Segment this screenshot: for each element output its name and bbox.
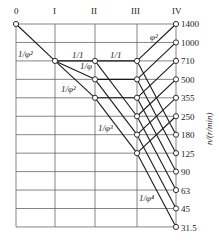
speed-node	[173, 187, 178, 192]
ratio-0-I: 1/φ²	[18, 49, 33, 59]
speed-node	[92, 77, 97, 82]
shaft-label-III: III	[131, 6, 140, 16]
speed-node	[52, 58, 57, 63]
speed-chart-diagram: 0 I II III IV 1400 1000 710 500 355 250 …	[0, 0, 219, 242]
speed-180: 180	[181, 130, 195, 140]
speed-node	[92, 58, 97, 63]
ratio-I-II-1: 1/1	[72, 50, 84, 60]
speed-node	[134, 77, 139, 82]
speed-node	[134, 95, 139, 100]
speed-node	[173, 40, 178, 45]
axis-label: n/(r/min)	[204, 112, 214, 145]
diagram-canvas: 0 I II III IV 1400 1000 710 500 355 250 …	[0, 0, 219, 242]
speed-710: 710	[181, 56, 195, 66]
shaft-label-IV: IV	[172, 6, 182, 16]
speed-1000: 1000	[181, 38, 200, 48]
ratio-II-III-1: 1/1	[110, 50, 122, 60]
speed-node	[173, 95, 178, 100]
speed-45: 45	[181, 204, 191, 214]
shaft-label-II: II	[91, 6, 97, 16]
speed-node	[173, 58, 178, 63]
speed-node	[173, 169, 178, 174]
speed-node	[134, 132, 139, 137]
speed-node	[134, 114, 139, 119]
speed-1400: 1400	[181, 19, 200, 29]
speed-355: 355	[181, 93, 195, 103]
ratio-I-II-2: 1/φ	[80, 61, 92, 71]
speed-node	[173, 77, 178, 82]
ratio-III-IV-2: 1/φ⁴	[139, 193, 154, 203]
speed-node	[173, 114, 178, 119]
shaft-label-0: 0	[14, 6, 19, 16]
speed-node	[173, 132, 178, 137]
speed-node	[134, 58, 139, 63]
speed-500: 500	[181, 75, 195, 85]
speed-node	[173, 206, 178, 211]
speed-node	[134, 151, 139, 156]
ratio-III-IV-1: φ²	[150, 32, 158, 42]
speed-90: 90	[181, 167, 191, 177]
ratio-II-III-2: 1/φ³	[98, 123, 113, 133]
ratio-I-II-3: 1/φ²	[61, 84, 76, 94]
speed-node	[13, 21, 18, 26]
speed-node	[173, 151, 178, 156]
speed-node	[173, 224, 178, 229]
speed-63: 63	[181, 186, 191, 196]
shaft-label-I: I	[53, 6, 56, 16]
speed-250: 250	[181, 112, 195, 122]
speed-31-5: 31.5	[181, 223, 197, 233]
speed-node	[173, 21, 178, 26]
speed-125: 125	[181, 149, 195, 159]
speed-node	[92, 95, 97, 100]
